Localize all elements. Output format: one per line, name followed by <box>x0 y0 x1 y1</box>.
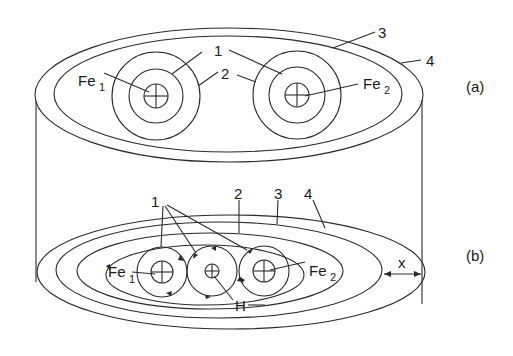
panel-tag-a: (a) <box>466 78 484 95</box>
leader-1a-b <box>161 206 163 247</box>
label-fe2-a: Fe <box>363 75 381 92</box>
label-2-b: 2 <box>234 185 242 202</box>
label-3-b: 3 <box>274 185 282 202</box>
leader-3-b <box>277 200 278 224</box>
label-fe2-sub-a: 2 <box>384 84 390 96</box>
label-fe1-sub-b: 1 <box>129 273 135 285</box>
arrowhead-icon <box>211 246 216 251</box>
leader-2-left-a <box>198 72 218 86</box>
ellipse-3-a <box>54 36 402 152</box>
label-fe1-a: Fe <box>78 72 96 89</box>
leader-4-a <box>401 60 421 63</box>
coil-fe2-b <box>239 246 289 296</box>
ellipse-4-b <box>37 215 425 329</box>
coil-fe1-a <box>112 52 200 140</box>
label-4-a: 4 <box>426 52 434 69</box>
label-2-a: 2 <box>221 65 229 82</box>
leader-fe1-a <box>104 73 149 92</box>
leader-fe2-a <box>305 84 358 96</box>
label-1-a: 1 <box>214 42 222 59</box>
leader-2-right-a <box>237 75 256 82</box>
label-fe1-sub-a: 1 <box>99 81 105 93</box>
coil-fe1-b <box>137 247 187 297</box>
label-fe2-b: Fe <box>309 262 327 279</box>
label-3-a: 3 <box>378 24 386 41</box>
label-1-b: 1 <box>151 193 159 210</box>
panel-b: 1 2 3 4 Fe 1 Fe 2 H x (b) <box>37 185 484 329</box>
ellipse-4-a <box>35 28 423 162</box>
leader-1-right-a <box>229 50 282 74</box>
leader-4-b <box>313 200 325 228</box>
panel-a: Fe 1 1 2 3 4 Fe 2 (a) <box>35 24 484 162</box>
label-fe1-b: Fe <box>108 263 126 280</box>
cylinder-coil-diagram: Fe 1 1 2 3 4 Fe 2 (a) <box>0 0 513 356</box>
label-h-b: H <box>235 297 246 314</box>
arrow-left-icon <box>384 271 391 277</box>
label-fe2-sub-b: 2 <box>330 271 336 283</box>
leader-1-left-a <box>172 52 202 74</box>
label-4-b: 4 <box>304 185 312 202</box>
coil-fe2-a <box>253 51 341 139</box>
arrowhead-icon <box>166 291 172 296</box>
arrow-right-icon <box>414 271 421 277</box>
panel-tag-b: (b) <box>466 247 484 264</box>
label-x-b: x <box>398 254 406 271</box>
